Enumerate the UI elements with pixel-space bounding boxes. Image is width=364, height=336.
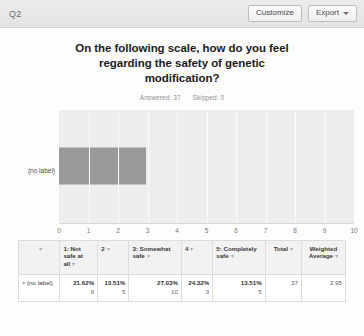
cell-option-4: 24.32% 9 [181, 275, 212, 302]
column-header-5[interactable]: 5: Completely safe▾ [213, 240, 266, 275]
customize-button-label: Customize [256, 9, 294, 17]
cell-count: 9 [185, 288, 209, 296]
x-axis-tick-label: 6 [234, 227, 238, 234]
cell-total: 37 [265, 275, 301, 302]
chart-gridline [177, 110, 178, 223]
page-title-line-3: modification? [145, 72, 220, 84]
toolbar: Q2 Customize Export [0, 0, 364, 28]
chart-gridline [148, 110, 149, 223]
x-axis-tick-label: 10 [350, 227, 357, 234]
results-table-body: ▾(no label) 21.62% 8 13.51% 5 27.03% 1 [19, 275, 346, 302]
cell-percent: 21.62% [63, 279, 94, 287]
sort-caret-icon: ▾ [335, 253, 338, 259]
page-title: On the following scale, how do you feel … [36, 41, 328, 87]
chart-gridline [325, 110, 326, 223]
x-axis-tick-label: 1 [87, 227, 91, 234]
sort-caret-icon: ▾ [290, 246, 293, 252]
sort-caret-icon: ▾ [190, 246, 193, 252]
chart-bar[interactable] [59, 148, 146, 185]
column-header-total[interactable]: Total▾ [265, 240, 301, 275]
table-header-row: ▾ 1: Not safe at all▾ 2▾ 3: Somewhat saf… [19, 240, 346, 275]
column-header-weighted-average-label: Weighted Average [309, 245, 337, 260]
column-header-4-label: 4 [185, 245, 188, 252]
cell-option-3: 27.03% 10 [129, 275, 182, 302]
cell-option-1: 21.62% 8 [60, 275, 98, 302]
x-axis-tick-label: 7 [264, 227, 268, 234]
results-table-head: ▾ 1: Not safe at all▾ 2▾ 3: Somewhat saf… [19, 240, 346, 275]
cell-count: 8 [63, 288, 94, 296]
expand-caret-icon: ▾ [22, 280, 25, 286]
sort-caret-icon: ▾ [72, 261, 75, 267]
column-header-4[interactable]: 4▾ [181, 240, 212, 275]
skipped-count: Skipped: 0 [193, 94, 225, 101]
cell-option-5: 13.51% 5 [213, 275, 266, 302]
cell-percent: 13.51% [216, 279, 262, 287]
bar-chart: (no label) 012345678910 [10, 110, 354, 230]
question-number-label: Q2 [9, 9, 21, 19]
chart-gridline [236, 110, 237, 223]
column-header-total-label: Total [274, 245, 288, 252]
cell-count: 10 [132, 288, 178, 296]
cell-percent: 24.32% [185, 279, 209, 287]
chart-gridline [266, 110, 267, 223]
results-table: ▾ 1: Not safe at all▾ 2▾ 3: Somewhat saf… [18, 240, 346, 303]
x-axis-tick-label: 3 [146, 227, 150, 234]
response-summary: Answered: 37 Skipped: 0 [10, 94, 354, 101]
results-table-container: ▾ 1: Not safe at all▾ 2▾ 3: Somewhat saf… [10, 240, 354, 309]
x-axis-tick-label: 2 [116, 227, 120, 234]
cell-percent: 13.51% [101, 279, 125, 287]
chart-gridline [207, 110, 208, 223]
page-title-line-2: regarding the safety of genetic [99, 57, 265, 69]
sort-caret-icon: ▾ [231, 253, 234, 259]
survey-result-panel: Q2 Customize Export On the following sca… [0, 0, 364, 336]
chart-gridline [118, 110, 119, 223]
chart-y-axis: (no label) [10, 110, 59, 230]
cell-count: 5 [216, 288, 262, 296]
column-header-row-label[interactable]: ▾ [19, 240, 60, 275]
column-header-2-label: 2 [101, 245, 104, 252]
cell-count: 5 [101, 288, 125, 296]
cell-option-2: 13.51% 5 [98, 275, 129, 302]
chart-gridline [89, 110, 90, 223]
cell-weighted-average: 2.95 [301, 275, 345, 302]
x-axis-tick-label: 8 [293, 227, 297, 234]
chart-plot-column: 012345678910 [59, 110, 354, 230]
sort-caret-icon: ▾ [147, 253, 150, 259]
x-axis-tick-label: 9 [323, 227, 327, 234]
row-label: (no label) [27, 279, 53, 286]
answered-count: Answered: 37 [140, 94, 181, 101]
column-header-2[interactable]: 2▾ [98, 240, 129, 275]
toolbar-actions: Customize Export [248, 5, 357, 22]
x-axis-tick-label: 4 [175, 227, 179, 234]
table-row: ▾(no label) 21.62% 8 13.51% 5 27.03% 1 [19, 275, 346, 302]
column-header-3-label: 3: Somewhat safe [132, 245, 170, 260]
column-header-3[interactable]: 3: Somewhat safe▾ [129, 240, 182, 275]
x-axis-tick-label: 0 [57, 227, 61, 234]
cell-percent: 27.03% [132, 279, 178, 287]
page-title-line-1: On the following scale, how do you feel [75, 42, 288, 54]
sort-caret-icon: ▾ [39, 246, 42, 252]
sort-caret-icon: ▾ [107, 246, 110, 252]
chart-section: On the following scale, how do you feel … [0, 41, 364, 308]
chart-plot-area [59, 110, 354, 223]
customize-button[interactable]: Customize [248, 5, 302, 22]
row-label-cell[interactable]: ▾(no label) [19, 275, 60, 302]
caret-down-icon [343, 12, 349, 15]
export-button-label: Export [316, 9, 339, 17]
chart-gridline [295, 110, 296, 223]
x-axis-tick-label: 5 [205, 227, 209, 234]
column-header-1[interactable]: 1: Not safe at all▾ [60, 240, 98, 275]
y-axis-category-label: (no label) [28, 166, 55, 173]
chart-x-axis: 012345678910 [59, 223, 354, 238]
column-header-weighted-average[interactable]: Weighted Average▾ [301, 240, 345, 275]
column-header-5-label: 5: Completely safe [216, 245, 257, 260]
export-button[interactable]: Export [308, 5, 357, 22]
